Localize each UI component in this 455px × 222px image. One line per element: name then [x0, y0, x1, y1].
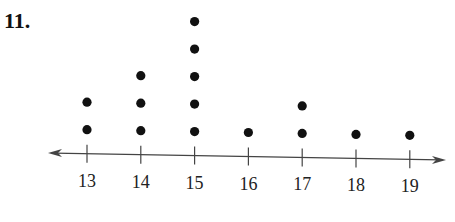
data-dot	[298, 101, 307, 110]
number-line-axis	[48, 149, 446, 164]
data-dot	[190, 72, 199, 81]
tick-label: 13	[78, 171, 96, 191]
data-dot	[298, 129, 307, 138]
axis-tick-labels: 13141516171819	[78, 171, 419, 197]
axis-ticks	[87, 145, 410, 169]
data-dot	[190, 17, 199, 26]
data-dot	[190, 127, 199, 136]
data-dots	[82, 17, 414, 140]
data-dot	[82, 98, 91, 107]
data-dot	[136, 126, 145, 135]
tick-label: 18	[347, 175, 365, 195]
data-dot	[244, 128, 253, 137]
tick-label: 19	[401, 176, 419, 196]
data-dot	[136, 99, 145, 108]
tick-label: 17	[293, 174, 311, 194]
tick-label: 15	[186, 173, 204, 193]
data-dot	[190, 44, 199, 53]
data-dot	[82, 125, 91, 134]
dot-plot: 13141516171819	[0, 0, 455, 222]
data-dot	[190, 99, 199, 108]
data-dot	[136, 71, 145, 80]
data-dot	[351, 130, 360, 139]
data-dot	[405, 131, 414, 140]
tick-label: 16	[239, 174, 257, 194]
tick-label: 14	[132, 172, 150, 192]
